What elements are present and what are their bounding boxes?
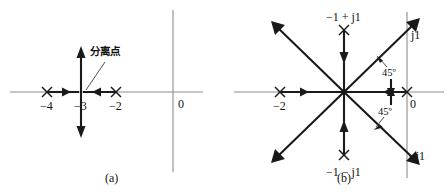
figure-container: 分离点 −4 −3 −2 0 (a) bbox=[0, 0, 447, 194]
panel-a-label-origin: 0 bbox=[178, 97, 184, 111]
panel-b-arrowhead-vertical-up bbox=[340, 120, 349, 132]
panel-b-angle-label-upper: 45º bbox=[382, 67, 397, 78]
panel-a-arrowhead-right bbox=[62, 88, 71, 97]
panel-a-label-minus4: −4 bbox=[40, 99, 53, 113]
panel-b-caption: (b) bbox=[337, 171, 351, 185]
panel-b-label-j1: j1 bbox=[410, 28, 420, 42]
panel-a-breakaway-label: 分离点 bbox=[90, 45, 121, 57]
panel-a-arrowhead-left bbox=[92, 88, 101, 97]
panel-a-arrowhead-down bbox=[77, 126, 86, 138]
root-locus-figure: 分离点 −4 −3 −2 0 (a) bbox=[0, 0, 447, 194]
panel-a-breakaway-leader bbox=[86, 62, 105, 90]
panel-b-label-origin: 0 bbox=[410, 97, 416, 111]
panel-b-arrowhead-vertical-down bbox=[340, 52, 349, 64]
panel-b: −1 + j1 −1 − j1 j1 −j1 −2 0 45º 45º (b) bbox=[234, 10, 444, 185]
panel-b-angle-leader-upper bbox=[377, 56, 388, 68]
panel-a-label-minus3: −3 bbox=[74, 99, 87, 113]
panel-a: 分离点 −4 −3 −2 0 (a) bbox=[10, 10, 203, 185]
panel-b-label-minus-j1: −j1 bbox=[409, 149, 425, 163]
panel-b-label-minus1-plus-j1: −1 + j1 bbox=[326, 10, 361, 24]
panel-b-label-minus2: −2 bbox=[273, 99, 286, 113]
panel-b-arrowhead-real-right bbox=[300, 88, 309, 97]
panel-a-arrowhead-up bbox=[77, 46, 86, 58]
panel-a-caption: (a) bbox=[105, 171, 118, 185]
panel-a-label-minus2: −2 bbox=[109, 99, 122, 113]
panel-b-angle-label-lower: 45º bbox=[378, 106, 393, 117]
panel-b-asymptote-upper-left bbox=[277, 27, 344, 92]
panel-b-asymptote-lower-left bbox=[277, 92, 344, 157]
